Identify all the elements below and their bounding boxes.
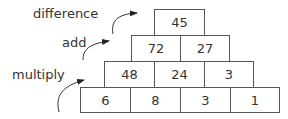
pyramid-cell-r3-c3: 3 [204, 61, 254, 88]
pyramid-cell-r1-c1: 45 [154, 9, 205, 36]
pyramid-cell-r2-c2: 27 [180, 35, 230, 62]
pyramid-cell-r4-c3: 3 [180, 87, 231, 113]
pyramid-cell-r4-c1: 6 [80, 87, 131, 113]
pyramid-cell-r2-c1: 72 [131, 35, 181, 62]
arrow-difference-icon [113, 13, 137, 34]
arrow-add-icon [83, 41, 109, 60]
pyramid-cell-r3-c2: 24 [154, 61, 205, 88]
pyramid-cell-r3-c1: 48 [104, 61, 155, 88]
pyramid-cell-r4-c4: 1 [230, 87, 280, 113]
pyramid-cell-r4-c2: 8 [130, 87, 181, 113]
